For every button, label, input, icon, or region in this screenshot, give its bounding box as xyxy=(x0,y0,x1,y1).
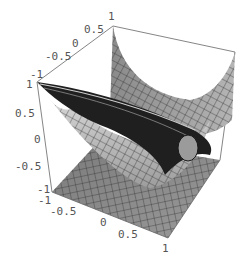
tick-label: 1 xyxy=(108,10,115,23)
top-axis-ticks: -1 -0.5 0 0.5 1 xyxy=(30,10,115,81)
tick-label: 0.5 xyxy=(15,107,35,120)
tick-label: 0 xyxy=(72,37,79,50)
tick-label: 1 xyxy=(162,242,169,255)
tick-label: -0.5 xyxy=(15,160,42,173)
tick-label: 0.5 xyxy=(118,228,138,241)
tick-label: 0 xyxy=(34,133,41,146)
tick-label: 0 xyxy=(100,216,107,229)
left-axis-ticks: 1 0.5 0 -0.5 -1 xyxy=(15,78,50,196)
surface-plot: -1 -0.5 0 0.5 1 1 0.5 0 -0.5 -1 -1 -0.5 … xyxy=(0,0,249,260)
tick-label: -0.5 xyxy=(50,205,77,218)
tick-label: -0.5 xyxy=(45,50,72,63)
tick-label: 0.5 xyxy=(84,23,104,36)
tick-label: 1 xyxy=(26,78,33,91)
